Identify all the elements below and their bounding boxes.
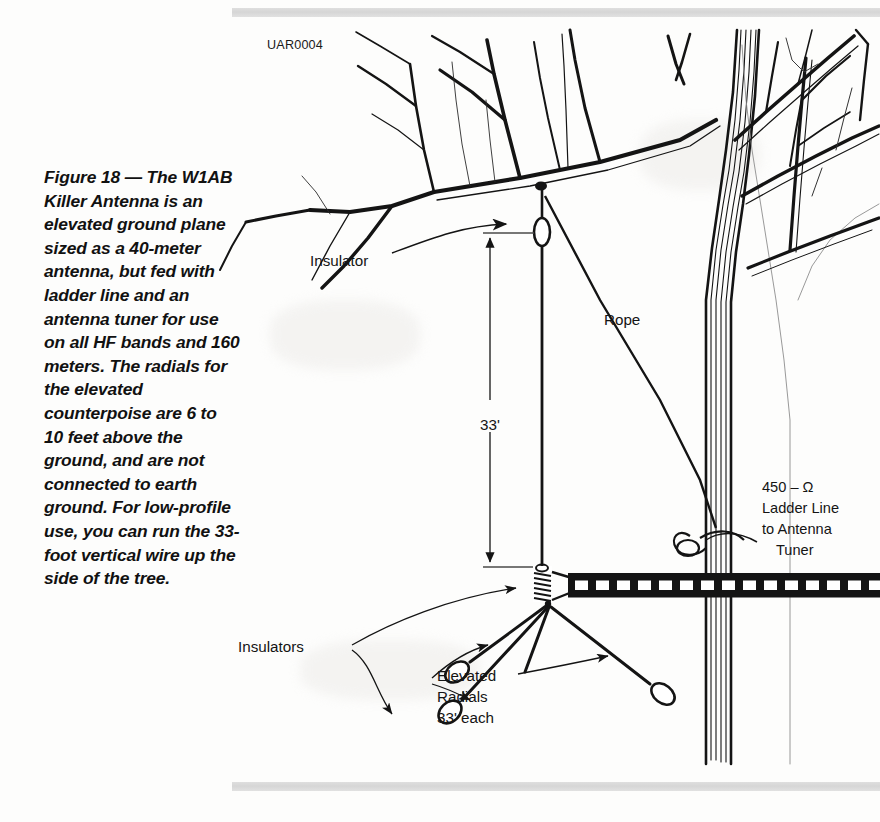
label-elevated-radials-line2: Radials — [437, 688, 488, 705]
label-ladderline-line3: to Antenna — [762, 521, 833, 537]
leader-insulators-bottom — [352, 588, 516, 714]
label-rope: Rope — [604, 311, 640, 328]
dimension-33ft — [483, 233, 534, 567]
label-insulators-bottom: Insulators — [238, 638, 304, 655]
label-elevated-radials-line3: 33' each — [437, 709, 494, 726]
dimension-33ft-label: 33' — [480, 416, 500, 433]
wire-attachment-point — [535, 182, 547, 191]
radial-insulator-4 — [647, 679, 679, 709]
label-elevated-radials-line1: Elevated — [437, 667, 496, 684]
radial-wire-2 — [462, 608, 547, 700]
tree-line-art — [220, 30, 879, 764]
radial-wire-4 — [551, 607, 650, 684]
top-insulator-oval — [534, 218, 550, 246]
figure-page: UAR0004 Figure 18 — The W1AB Killer Ante… — [0, 0, 880, 822]
label-ladderline-line2: Ladder Line — [762, 500, 839, 516]
support-rope — [545, 196, 744, 556]
radial-wire-1 — [470, 606, 546, 662]
ladder-line-450ohm — [568, 573, 880, 598]
vertical-radiator-wire — [534, 182, 550, 567]
tree-branches-left — [220, 30, 720, 288]
label-insulator-top: Insulator — [310, 252, 368, 269]
label-ladderline-line4: Tuner — [776, 542, 814, 558]
label-ladderline-line1: 450 – Ω — [762, 479, 814, 495]
feedpoint-coil-insulator — [533, 565, 572, 608]
leader-insulator-top — [392, 224, 506, 253]
tree-branches-right — [668, 30, 879, 276]
ladder-line-windows — [575, 581, 880, 591]
antenna-diagram: 33' — [0, 0, 880, 822]
trunk-faint-outline — [742, 45, 879, 764]
